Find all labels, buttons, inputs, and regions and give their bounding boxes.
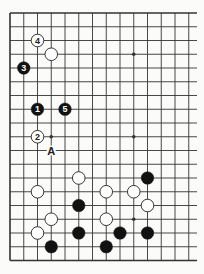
- black-stone-5: 5: [59, 103, 72, 116]
- black-stone: [45, 240, 58, 253]
- stone-disc: [100, 185, 113, 198]
- star-point: [132, 52, 136, 56]
- stone-disc: [100, 240, 113, 253]
- black-stone: [141, 172, 154, 185]
- move-number: 1: [35, 104, 40, 114]
- markers: A: [47, 145, 56, 157]
- black-stone: [72, 227, 85, 240]
- stone-disc: [72, 172, 85, 185]
- stone-disc: [141, 227, 154, 240]
- white-stone: [141, 199, 154, 212]
- black-stone-3: 3: [17, 62, 30, 75]
- white-stone: [31, 227, 44, 240]
- move-number: 5: [62, 104, 67, 114]
- stone-disc: [100, 213, 113, 226]
- stone-disc: [45, 48, 58, 61]
- black-stone: [114, 227, 127, 240]
- stone-disc: [114, 227, 127, 240]
- white-stone: [31, 185, 44, 198]
- black-stone: [72, 199, 85, 212]
- white-stone-2: 2: [31, 130, 44, 143]
- star-point: [132, 217, 136, 221]
- white-stone: [45, 48, 58, 61]
- stone-disc: [31, 227, 44, 240]
- stone-disc: [127, 185, 140, 198]
- stone-disc: [45, 213, 58, 226]
- white-stone: [100, 213, 113, 226]
- black-stone: [141, 227, 154, 240]
- stone-disc: [45, 240, 58, 253]
- white-stone: [72, 172, 85, 185]
- white-stone-4: 4: [31, 34, 44, 47]
- star-point: [132, 135, 136, 139]
- stone-disc: [141, 172, 154, 185]
- go-board: 43152 A: [0, 0, 204, 274]
- star-point: [49, 135, 53, 139]
- move-number: 3: [21, 63, 26, 73]
- stone-disc: [72, 227, 85, 240]
- white-stone: [45, 213, 58, 226]
- stone-disc: [72, 199, 85, 212]
- point-label: A: [47, 145, 55, 157]
- move-number: 2: [35, 132, 40, 142]
- black-stone-1: 1: [31, 103, 44, 116]
- white-stone: [127, 185, 140, 198]
- white-stone: [100, 185, 113, 198]
- black-stone: [100, 240, 113, 253]
- move-number: 4: [35, 36, 40, 46]
- stone-disc: [141, 199, 154, 212]
- stone-disc: [31, 185, 44, 198]
